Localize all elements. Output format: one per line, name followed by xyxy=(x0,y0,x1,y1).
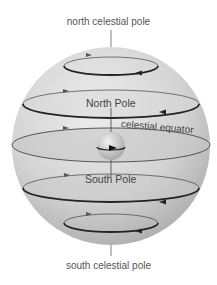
south-celestial-pole-label: south celestial pole xyxy=(0,260,217,271)
celestial-sphere-diagram xyxy=(0,0,217,285)
north-pole-label: North Pole xyxy=(86,97,136,109)
earth xyxy=(97,132,125,160)
north-celestial-pole-label: north celestial pole xyxy=(0,16,217,27)
south-pole-label: South Pole xyxy=(85,173,136,185)
